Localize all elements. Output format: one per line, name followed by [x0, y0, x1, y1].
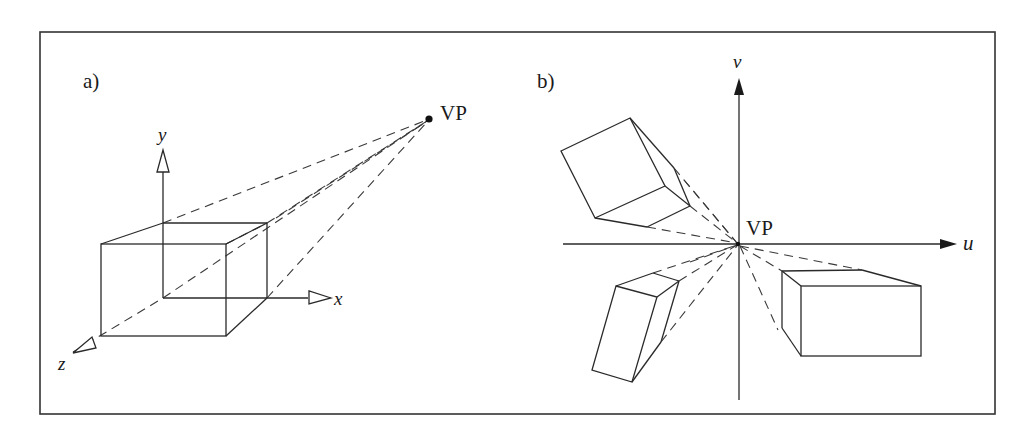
- panel-a: a) y: [57, 69, 467, 374]
- z-axis-label: z: [57, 353, 66, 374]
- x-axis-arrow-icon: [309, 291, 331, 304]
- panel-b-label: b): [537, 69, 555, 93]
- panel-a-cube: [101, 223, 267, 336]
- panel-b-vp-label: VP: [746, 216, 773, 240]
- y-axis-arrow-icon: [157, 150, 169, 172]
- panel-a-vp-dot: [425, 115, 432, 122]
- v-axis-arrow-icon: [734, 78, 744, 95]
- u-axis-label: u: [963, 231, 974, 255]
- panel-a-label: a): [83, 69, 99, 93]
- panel-b-box-lower-right: [740, 246, 921, 356]
- panel-a-vp-label: VP: [440, 101, 467, 125]
- perspective-figure: a) y: [0, 0, 1024, 434]
- panel-b-cube-lower-left: [592, 245, 737, 382]
- y-axis-label: y: [156, 124, 167, 145]
- v-axis-label: v: [733, 51, 742, 72]
- panel-b-cube-upper-left: [561, 118, 737, 243]
- panel-b-vp-dot: [736, 242, 740, 246]
- panel-b: b) v u: [537, 51, 974, 400]
- x-axis-label: x: [333, 288, 343, 309]
- z-axis-arrow-icon: [73, 337, 96, 353]
- u-axis-arrow-icon: [940, 239, 957, 249]
